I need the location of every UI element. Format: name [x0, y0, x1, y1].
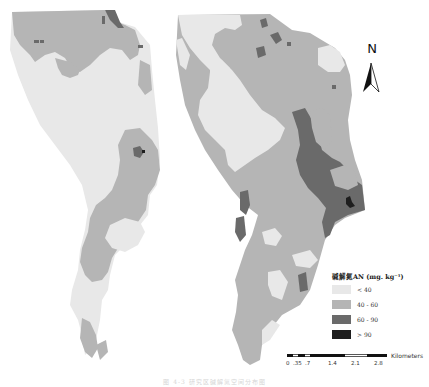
scale-unit: Kilometers	[391, 352, 423, 359]
north-indicator: N	[360, 42, 384, 55]
legend-label: < 40	[357, 286, 372, 293]
scale-tick: 0	[286, 360, 290, 366]
north-letter: N	[360, 42, 384, 55]
scale-tick: 2.8	[374, 360, 383, 366]
scale-tick: 1.4	[328, 360, 337, 366]
legend-label: 60 - 90	[357, 316, 378, 323]
right-region-class3-left	[240, 190, 250, 215]
legend-title: 碱解氮AN (mg. kg⁻¹)	[332, 271, 427, 281]
left-map-panel	[10, 10, 160, 360]
north-arrow-icon	[363, 63, 379, 92]
scale-bar-graphic	[287, 354, 387, 357]
legend-swatch	[332, 300, 351, 309]
right-region-class3-left2	[235, 216, 246, 242]
left-region-class2-lower	[96, 340, 108, 360]
legend-item: > 90	[332, 328, 427, 341]
legend: 碱解氮AN (mg. kg⁻¹) < 40 40 - 60 60 - 90 > …	[332, 271, 427, 341]
left-hotspot	[142, 150, 145, 153]
scale-tick: .7	[305, 360, 310, 366]
left-hotspot	[102, 16, 105, 24]
legend-item: 60 - 90	[332, 313, 427, 326]
legend-label: 40 - 60	[357, 301, 378, 308]
right-hotspot	[287, 42, 291, 46]
figure-caption: 图 4-3 研究区碱解氮空间分布图	[0, 377, 429, 386]
legend-item: 40 - 60	[332, 298, 427, 311]
scale-tick: 2.1	[351, 360, 360, 366]
legend-swatch	[332, 285, 351, 294]
scale-tick: .35	[293, 360, 302, 366]
legend-swatch	[332, 315, 351, 324]
legend-label: > 90	[357, 331, 372, 338]
right-hotspot	[332, 85, 336, 89]
legend-swatch	[332, 330, 351, 339]
left-hotspot	[34, 40, 39, 43]
legend-item: < 40	[332, 283, 427, 296]
left-hotspot	[138, 45, 143, 48]
left-hotspot	[40, 40, 44, 43]
